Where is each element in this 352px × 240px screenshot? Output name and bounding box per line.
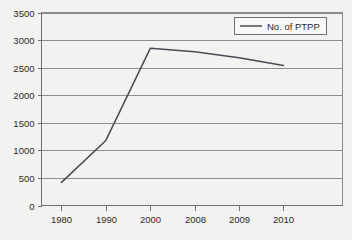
x-tick-label: 2009 [229,214,250,225]
x-tick-label: 2008 [185,214,206,225]
legend-entry-label: No. of PTPP [267,21,320,32]
chart-legend: No. of PTPP [235,18,327,35]
y-tick-label: 0 [29,201,34,212]
chart-container: 0500100015002000250030003500 19801990200… [0,0,352,240]
x-tick-label: 1990 [96,214,117,225]
x-tick-label: 2000 [140,214,161,225]
y-tick-label: 1000 [13,145,34,156]
scan-background [0,0,352,240]
y-tick-label: 2000 [13,90,34,101]
x-tick-label: 1980 [51,214,72,225]
x-tick-label: 2010 [273,214,294,225]
y-tick-label: 3000 [13,35,34,46]
y-tick-label: 3500 [13,8,34,19]
y-tick-label: 2500 [13,63,34,74]
y-tick-label: 500 [19,173,35,184]
y-tick-label: 1500 [13,118,34,129]
line-chart: 0500100015002000250030003500 19801990200… [0,0,352,240]
